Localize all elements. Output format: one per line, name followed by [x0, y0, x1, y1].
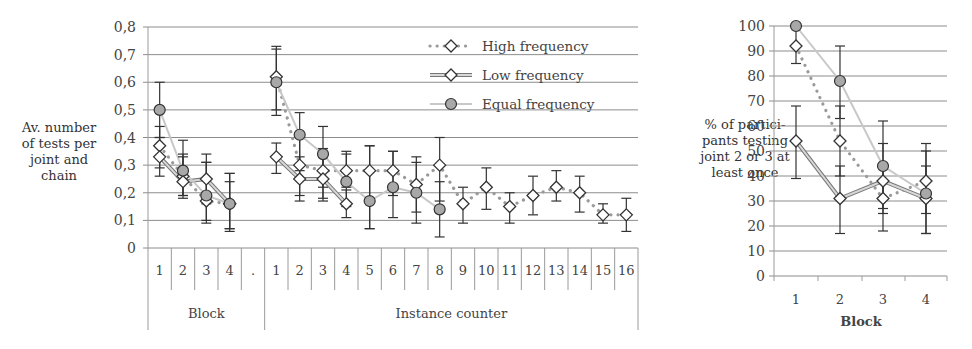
right-chart: 01020304050607080901001234Block [600, 0, 972, 349]
legend-label: High frequency [482, 38, 589, 54]
x-category-label: . [251, 263, 255, 278]
low-frequency-line-inner [160, 157, 230, 204]
diamond-marker [445, 40, 457, 52]
x-category-label: 6 [389, 263, 397, 278]
x-category-label: 12 [525, 263, 542, 278]
diamond-marker [550, 181, 562, 193]
circle-marker [201, 190, 212, 201]
diamond-marker [294, 159, 306, 171]
circle-marker [224, 198, 235, 209]
diamond-marker [480, 181, 492, 193]
diamond-marker [364, 165, 376, 177]
low-frequency-line [276, 157, 346, 204]
y-tick-label: 0 [127, 240, 136, 256]
y-tick-label: 0,8 [114, 19, 136, 35]
diamond-marker [877, 175, 889, 187]
circle-marker [294, 129, 305, 140]
x-category-label: 3 [202, 263, 210, 278]
y-tick-label: 0 [756, 268, 765, 284]
y-tick-label: 70 [747, 93, 765, 109]
x-category-label: 4 [922, 292, 930, 307]
y-tick-label: 20 [747, 218, 765, 234]
y-tick-label: 60 [747, 118, 765, 134]
x-category-label: 4 [342, 263, 350, 278]
x-category-label: 2 [179, 263, 187, 278]
y-tick-label: 90 [747, 43, 765, 59]
y-tick-label: 0,6 [114, 74, 136, 90]
legend-label: Low frequency [482, 67, 584, 83]
circle-marker [446, 99, 457, 110]
group-label-block: Block [188, 306, 225, 321]
y-tick-label: 0,3 [114, 157, 136, 173]
circle-marker [411, 187, 422, 198]
circle-marker [434, 204, 445, 215]
y-tick-label: 80 [747, 68, 765, 84]
y-tick-label: 50 [747, 143, 765, 159]
diamond-marker [527, 190, 539, 202]
y-tick-label: 10 [747, 243, 765, 259]
y-tick-label: 0,4 [114, 130, 136, 146]
circle-marker [878, 161, 889, 172]
y-tick-label: 30 [747, 193, 765, 209]
circle-marker [364, 196, 375, 207]
circle-marker [388, 182, 399, 193]
x-axis-label: Block [840, 314, 883, 329]
y-tick-label: 0,2 [114, 185, 136, 201]
group-label-instance-counter: Instance counter [396, 306, 508, 321]
diamond-marker [340, 165, 352, 177]
circle-marker [154, 104, 165, 115]
diamond-marker [445, 69, 457, 81]
diamond-marker [834, 135, 846, 147]
circle-marker [318, 149, 329, 160]
x-category-label: 1 [156, 263, 164, 278]
legend-label: Equal frequency [482, 96, 595, 112]
diamond-marker [790, 40, 802, 52]
circle-marker [271, 77, 282, 88]
y-tick-label: 40 [747, 168, 765, 184]
x-category-label: 7 [412, 263, 420, 278]
x-category-label: 10 [478, 263, 495, 278]
x-category-label: 14 [571, 263, 588, 278]
circle-marker [178, 165, 189, 176]
diamond-marker [920, 175, 932, 187]
x-category-label: 2 [836, 292, 844, 307]
circle-marker [791, 21, 802, 32]
x-category-label: 1 [792, 292, 800, 307]
y-tick-label: 0,7 [114, 47, 136, 63]
y-tick-label: 100 [738, 18, 765, 34]
x-category-label: 13 [548, 263, 565, 278]
circle-marker [921, 188, 932, 199]
x-category-label: 3 [319, 263, 327, 278]
left-chart: 00,10,20,30,40,50,60,70,81234.1234567891… [0, 0, 660, 349]
x-category-label: 3 [879, 292, 887, 307]
x-category-label: 4 [226, 263, 234, 278]
x-category-label: 2 [296, 263, 304, 278]
x-category-label: 5 [366, 263, 374, 278]
circle-marker [341, 176, 352, 187]
y-tick-label: 0,5 [114, 102, 136, 118]
y-tick-label: 0,1 [114, 212, 136, 228]
x-category-label: 8 [436, 263, 444, 278]
x-category-label: 11 [501, 263, 518, 278]
x-category-label: 9 [459, 263, 467, 278]
circle-marker [835, 76, 846, 87]
x-category-label: 1 [272, 263, 280, 278]
diamond-marker [457, 198, 469, 210]
